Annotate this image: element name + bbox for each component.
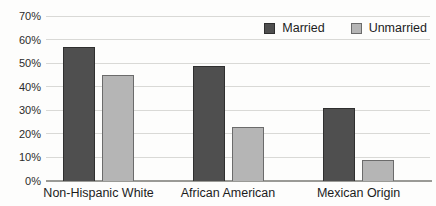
category-label: Mexican Origin bbox=[284, 186, 434, 200]
y-tick-label: 70% bbox=[0, 9, 41, 23]
gridline-50% bbox=[46, 63, 430, 64]
legend-item-married: Married bbox=[264, 21, 324, 35]
bar-married-african-american bbox=[193, 66, 225, 182]
bar-married-non-hispanic-white bbox=[63, 47, 95, 181]
legend-item-unmarried: Unmarried bbox=[351, 21, 427, 35]
legend-label-married: Married bbox=[282, 21, 324, 35]
gridline-70% bbox=[46, 16, 430, 17]
bar-unmarried-african-american bbox=[232, 127, 264, 181]
y-tick-label: 10% bbox=[0, 150, 41, 164]
bar-married-mexican-origin bbox=[323, 108, 355, 181]
legend-label-unmarried: Unmarried bbox=[369, 21, 427, 35]
y-tick-label: 20% bbox=[0, 127, 41, 141]
legend: Married Unmarried bbox=[264, 21, 427, 35]
y-tick-label: 50% bbox=[0, 56, 41, 70]
unmarried-swatch-icon bbox=[351, 23, 362, 34]
bar-unmarried-mexican-origin bbox=[362, 160, 394, 181]
y-tick-label: 30% bbox=[0, 103, 41, 117]
category-label: African American bbox=[153, 186, 303, 200]
category-label: Non-Hispanic White bbox=[24, 186, 174, 200]
y-tick-label: 40% bbox=[0, 80, 41, 94]
married-swatch-icon bbox=[264, 23, 275, 34]
y-tick-label: 60% bbox=[0, 33, 41, 47]
gridline-60% bbox=[46, 39, 430, 40]
bar-chart: 0%10%20%30%40%50%60%70% Non-Hispanic Whi… bbox=[0, 0, 436, 206]
bar-unmarried-non-hispanic-white bbox=[102, 75, 134, 181]
